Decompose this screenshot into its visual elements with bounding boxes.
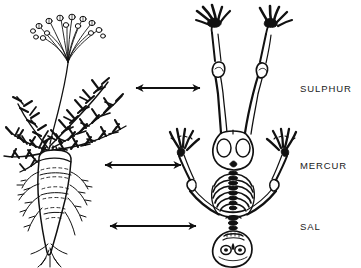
- diagram-canvas: SULPHUR MERCUR SAL: [0, 0, 361, 268]
- label-mercur: MERCUR: [300, 161, 347, 171]
- label-sal: SAL: [300, 222, 321, 232]
- label-sulphur: SULPHUR: [300, 84, 352, 94]
